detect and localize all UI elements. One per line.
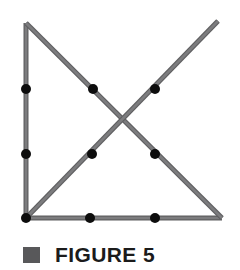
figure-caption: FIGURE 5: [23, 242, 155, 268]
point-left-middle: [21, 149, 31, 159]
figure-container: FIGURE 5: [0, 0, 240, 270]
point-ascending-lower: [87, 149, 97, 159]
point-hypotenuse-lower: [150, 149, 160, 159]
point-left-upper: [21, 84, 31, 94]
point-bottom-right-inner: [150, 213, 160, 223]
point-ascending-upper: [150, 84, 160, 94]
geometry-diagram: [0, 0, 240, 270]
caption-bullet-square-icon: [23, 247, 40, 263]
point-bottom-left-corner: [21, 213, 31, 223]
point-hypotenuse-upper: [88, 84, 98, 94]
segment-layer: [26, 21, 222, 218]
figure-caption-label: FIGURE 5: [55, 244, 155, 266]
point-bottom-middle: [85, 213, 95, 223]
